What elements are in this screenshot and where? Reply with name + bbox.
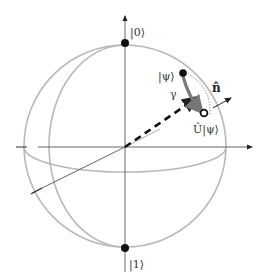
south-pole-point	[121, 244, 129, 252]
north-pole-label: |0⟩	[130, 26, 145, 40]
meridian-arc	[49, 45, 125, 247]
u-psi-label: Û|ψ⟩	[193, 122, 219, 137]
gamma-label: γ	[170, 88, 177, 101]
n-hat-label: n̂	[212, 81, 221, 95]
bloch-sphere-diagram: |0⟩ |1⟩ |ψ⟩ γ Û|ψ⟩ n̂	[0, 0, 266, 279]
psi-point	[179, 69, 187, 77]
north-pole-point	[121, 39, 129, 47]
x-axis	[32, 147, 125, 193]
u-psi-point	[201, 110, 208, 117]
psi-label: |ψ⟩	[158, 70, 175, 84]
rotation-axis-dashed	[125, 97, 198, 147]
south-pole-label: |1⟩	[129, 258, 144, 272]
